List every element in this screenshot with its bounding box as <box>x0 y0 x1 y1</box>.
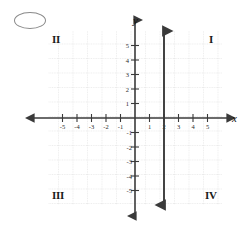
y-tick-label: -1 <box>127 129 132 136</box>
graph-canvas: -5 -4 -3 -2 -1 1 2 3 4 5 5 4 3 2 1 -1 -2… <box>0 0 250 225</box>
x-tick-label: -2 <box>103 123 108 130</box>
y-axis-label: y <box>133 14 138 26</box>
x-tick-label: -4 <box>74 123 80 130</box>
quadrant-label-1: I <box>209 34 213 45</box>
oval-annotation <box>14 12 46 29</box>
y-tick-label: 5 <box>126 42 129 49</box>
y-tick-label: -2 <box>127 144 132 151</box>
y-tick-label: 1 <box>126 100 129 107</box>
x-tick-label: -3 <box>89 123 94 130</box>
x-tick-label: 3 <box>177 123 180 130</box>
quadrant-label-4: IV <box>205 190 217 201</box>
y-tick-label: 2 <box>126 86 129 93</box>
y-tick-label: -3 <box>127 158 132 165</box>
x-axis-label: x <box>232 112 237 124</box>
x-tick-label: -5 <box>60 123 65 130</box>
y-tick-label: -5 <box>127 187 132 194</box>
y-tick-label: -4 <box>127 173 133 180</box>
quadrant-label-2: II <box>52 34 60 45</box>
x-tick-label: 5 <box>206 123 209 130</box>
x-tick-label: -1 <box>118 123 123 130</box>
quadrant-label-3: III <box>52 190 64 201</box>
x-tick-label: 1 <box>148 123 151 130</box>
y-tick-label: 3 <box>126 71 129 78</box>
